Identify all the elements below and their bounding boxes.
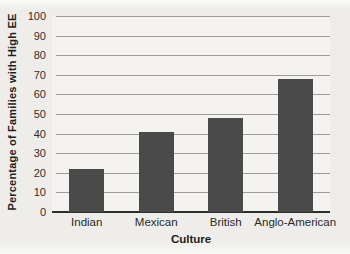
bar-mexican [139, 132, 174, 212]
plot-area [52, 16, 330, 212]
gridline-y100 [56, 16, 330, 17]
y-tick-label-90: 90 [0, 30, 46, 42]
y-tick-label-50: 50 [0, 108, 46, 120]
bar-indian [69, 169, 104, 212]
x-axis-title: Culture [52, 233, 330, 245]
gridline-y70 [56, 75, 330, 76]
y-tick-label-40: 40 [0, 128, 46, 140]
gridline-y80 [56, 55, 330, 56]
gridline-y90 [56, 36, 330, 37]
y-tick-label-70: 70 [0, 69, 46, 81]
y-tick-label-10: 10 [0, 186, 46, 198]
y-tick-label-20: 20 [0, 167, 46, 179]
y-tick-label-30: 30 [0, 147, 46, 159]
bar-anglo-american [278, 79, 313, 212]
y-tick-label-80: 80 [0, 49, 46, 61]
bar-british [208, 118, 243, 212]
y-tick-label-100: 100 [0, 10, 46, 22]
y-tick-label-60: 60 [0, 88, 46, 100]
x-category-label-anglo-american: Anglo-American [240, 216, 350, 228]
